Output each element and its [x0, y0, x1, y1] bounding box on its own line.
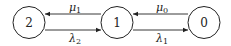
edge-label-lambda2: λ2 [68, 32, 81, 46]
node-1: 1 [101, 7, 133, 39]
edge-1-to-2: μ1 [45, 1, 101, 15]
node-0: 0 [188, 7, 220, 39]
edge-label-mu0: μ0 [156, 1, 168, 15]
state-transition-diagram: μ1 λ2 μ0 λ1 2 1 0 [0, 0, 231, 46]
node-2: 2 [13, 7, 45, 39]
edge-label-lambda1: λ1 [155, 32, 168, 46]
node-label-2: 2 [25, 16, 33, 30]
edge-2-to-1: λ2 [45, 30, 101, 46]
edge-0-to-1: μ0 [133, 1, 188, 15]
edge-label-mu1: μ1 [69, 1, 81, 15]
node-label-1: 1 [113, 16, 121, 30]
edge-1-to-0: λ1 [133, 30, 188, 46]
node-label-0: 0 [200, 16, 208, 30]
